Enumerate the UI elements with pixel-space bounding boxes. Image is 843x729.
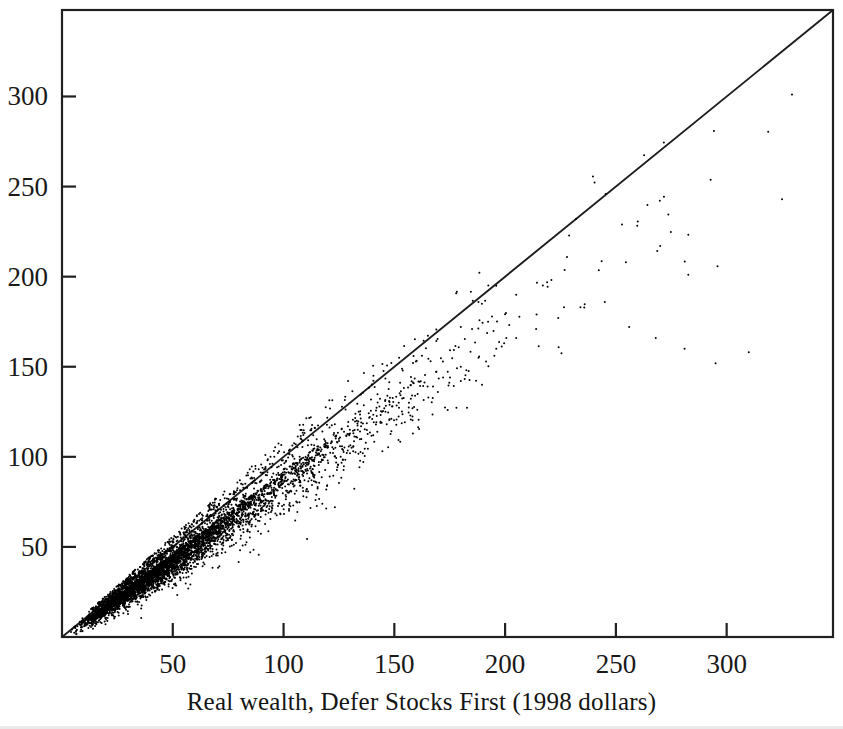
- scatter-point: [141, 591, 143, 593]
- scatter-point: [191, 530, 193, 532]
- scatter-point: [178, 531, 180, 533]
- scatter-point: [228, 514, 230, 516]
- scatter-point: [271, 476, 273, 478]
- scatter-point: [398, 407, 400, 409]
- scatter-point: [228, 527, 230, 529]
- scatter-point: [579, 306, 581, 308]
- scatter-point: [127, 589, 129, 591]
- scatter-point: [495, 285, 497, 287]
- scatter-point: [276, 514, 278, 516]
- scatter-point: [94, 607, 96, 609]
- scatter-point: [254, 509, 256, 511]
- scatter-point: [223, 539, 225, 541]
- scatter-point: [423, 340, 425, 342]
- scatter-point: [159, 566, 161, 568]
- scatter-point: [214, 540, 216, 542]
- scatter-point: [399, 382, 401, 384]
- scatter-point: [188, 576, 190, 578]
- scatter-point: [263, 486, 265, 488]
- scatter-point: [637, 221, 639, 223]
- scatter-point: [487, 365, 489, 367]
- scatter-point: [95, 623, 97, 625]
- scatter-point: [266, 474, 268, 476]
- scatter-point: [145, 599, 147, 601]
- scatter-point: [485, 361, 487, 363]
- scatter-point: [403, 387, 405, 389]
- scatter-point: [300, 463, 302, 465]
- scatter-point: [254, 497, 256, 499]
- scatter-point: [79, 623, 81, 625]
- scatter-point: [89, 625, 91, 627]
- scatter-point: [163, 553, 165, 555]
- scatter-point: [151, 576, 153, 578]
- scatter-point: [272, 463, 274, 465]
- scatter-point: [325, 445, 327, 447]
- scatter-point: [129, 598, 131, 600]
- scatter-point: [421, 355, 423, 357]
- scatter-point: [99, 618, 101, 620]
- scatter-point: [136, 585, 138, 587]
- scatter-point: [272, 490, 274, 492]
- scatter-point: [360, 438, 362, 440]
- scatter-point: [247, 530, 249, 532]
- scatter-point: [362, 461, 364, 463]
- scatter-point: [108, 600, 110, 602]
- scatter-point: [185, 557, 187, 559]
- scatter-point: [178, 556, 180, 558]
- scatter-point: [206, 519, 208, 521]
- scatter-point: [568, 235, 570, 237]
- scatter-point: [97, 613, 99, 615]
- scatter-point: [410, 376, 412, 378]
- scatter-point: [303, 429, 305, 431]
- scatter-point: [160, 547, 162, 549]
- scatter-point: [212, 548, 214, 550]
- scatter-point: [125, 594, 127, 596]
- scatter-point: [105, 610, 107, 612]
- scatter-point: [257, 520, 259, 522]
- scatter-point: [189, 583, 191, 585]
- scatter-point: [129, 575, 131, 577]
- scatter-point: [465, 369, 467, 371]
- scatter-point: [147, 581, 149, 583]
- scatter-point: [386, 395, 388, 397]
- scatter-point: [247, 501, 249, 503]
- scatter-point: [146, 562, 148, 564]
- scatter-point: [162, 563, 164, 565]
- scatter-point: [151, 592, 153, 594]
- scatter-point: [209, 556, 211, 558]
- scatter-point: [161, 550, 163, 552]
- scatter-point: [285, 498, 287, 500]
- scatter-point: [152, 565, 154, 567]
- scatter-point: [327, 459, 329, 461]
- scatter-point: [188, 553, 190, 555]
- scatter-point: [401, 397, 403, 399]
- scatter-point: [193, 566, 195, 568]
- scatter-point: [299, 485, 301, 487]
- scatter-point: [168, 573, 170, 575]
- scatter-point: [174, 560, 176, 562]
- scatter-point: [302, 457, 304, 459]
- scatter-point: [364, 448, 366, 450]
- scatter-point: [114, 591, 116, 593]
- scatter-point: [283, 468, 285, 470]
- scatter-point: [646, 204, 648, 206]
- scatter-point: [258, 494, 260, 496]
- scatter-point: [202, 515, 204, 517]
- scatter-point: [152, 574, 154, 576]
- scatter-point: [256, 492, 258, 494]
- scatter-point: [162, 556, 164, 558]
- scatter-point: [215, 506, 217, 508]
- scatter-point: [327, 442, 329, 444]
- scatter-point: [392, 397, 394, 399]
- scatter-point: [166, 568, 168, 570]
- scatter-point: [487, 321, 489, 323]
- scatter-point: [342, 459, 344, 461]
- scatter-point: [395, 396, 397, 398]
- scatter-point: [75, 631, 77, 633]
- scatter-point: [377, 401, 379, 403]
- scatter-point: [140, 617, 142, 619]
- scatter-point: [233, 530, 235, 532]
- scatter-point: [135, 600, 137, 602]
- scatter-point: [211, 532, 213, 534]
- scatter-point: [260, 505, 262, 507]
